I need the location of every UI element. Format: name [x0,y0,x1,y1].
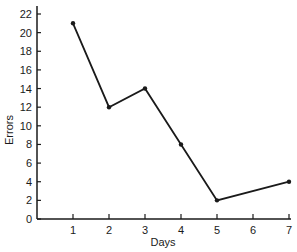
data-point [71,21,75,25]
y-tick-label: 18 [20,45,32,57]
line-chart: 0246810121416182022 1234567 Days Errors [0,0,297,252]
data-point [143,86,147,90]
y-tick-label: 2 [26,194,32,206]
data-point [107,105,111,109]
y-tick-label: 12 [20,101,32,113]
x-axis-label: Days [150,236,176,248]
x-tick-label: 2 [106,224,112,236]
y-tick-label: 6 [26,157,32,169]
x-tick-label: 5 [214,224,220,236]
series-group [71,21,291,202]
x-tick-label: 7 [286,224,292,236]
y-ticks: 0246810121416182022 [20,8,41,225]
y-tick-label: 10 [20,120,32,132]
y-tick-label: 14 [20,83,32,95]
data-point [215,198,219,202]
x-tick-label: 1 [70,224,76,236]
y-tick-label: 22 [20,8,32,20]
axes [37,6,291,219]
y-tick-label: 16 [20,64,32,76]
y-tick-label: 4 [26,176,32,188]
y-tick-label: 8 [26,138,32,150]
x-ticks: 1234567 [70,214,292,236]
x-tick-label: 4 [178,224,184,236]
y-tick-label: 0 [26,213,32,225]
data-point [179,142,183,146]
y-tick-label: 20 [20,27,32,39]
data-point [287,180,291,184]
series-line [73,23,289,200]
x-tick-label: 6 [250,224,256,236]
x-tick-label: 3 [142,224,148,236]
y-axis-label: Errors [3,115,15,145]
